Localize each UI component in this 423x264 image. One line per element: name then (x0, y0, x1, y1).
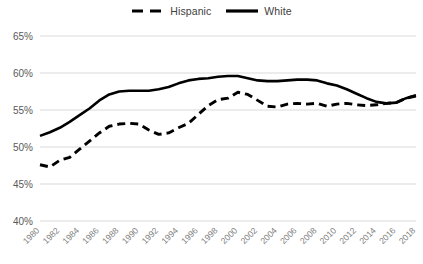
x-axis-tick-label: 1980 (21, 225, 42, 246)
y-axis-tick-label: 55% (13, 105, 33, 116)
x-axis-tick-label: 1982 (41, 225, 62, 246)
y-axis-labels: 40%45%50%55%60%65% (13, 31, 33, 227)
x-axis-tick-label: 2002 (239, 225, 260, 246)
x-axis-tick-label: 2008 (298, 225, 319, 246)
x-axis-tick-label: 1988 (100, 225, 121, 246)
y-axis-tick-label: 65% (13, 31, 33, 42)
y-axis-tick-label: 60% (13, 68, 33, 79)
x-axis-tick-label: 1986 (80, 225, 101, 246)
x-axis-tick-label: 1996 (179, 225, 200, 246)
plot-area: 40%45%50%55%60%65% 198019821984198619881… (0, 0, 423, 264)
y-axis-tick-label: 40% (13, 216, 33, 227)
line-chart: Hispanic White 40%45%50%55%60%65% 198019… (0, 0, 423, 264)
x-axis-tick-label: 1998 (199, 225, 220, 246)
gridlines (40, 36, 416, 221)
x-axis-tick-label: 1992 (140, 225, 161, 246)
x-axis-tick-label: 2012 (337, 225, 358, 246)
y-axis-tick-label: 45% (13, 179, 33, 190)
y-axis-tick-label: 50% (13, 142, 33, 153)
x-axis-tick-label: 2000 (219, 225, 240, 246)
x-axis-tick-label: 2004 (258, 225, 279, 246)
x-axis-tick-label: 1994 (159, 225, 180, 246)
x-axis-tick-label: 2014 (357, 225, 378, 246)
x-axis-tick-label: 2016 (377, 225, 398, 246)
x-axis-tick-label: 2010 (318, 225, 339, 246)
x-axis-tick-label: 1984 (60, 225, 81, 246)
x-axis-tick-label: 2006 (278, 225, 299, 246)
data-series-layer (40, 76, 416, 167)
x-axis-tick-label: 1990 (120, 225, 141, 246)
x-axis-labels: 1980198219841986198819901992199419961998… (21, 225, 418, 246)
x-axis-tick-label: 2018 (397, 225, 418, 246)
